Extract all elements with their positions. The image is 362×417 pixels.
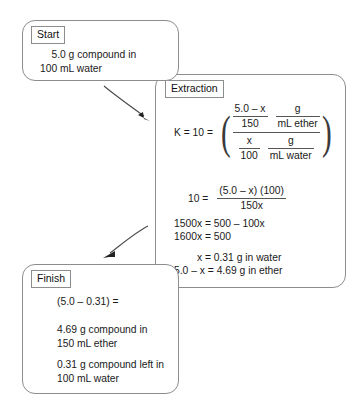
numerator-units-fraction: g mL ether	[276, 103, 320, 130]
complex-fraction-denominator: x 100 g mL water	[233, 133, 320, 162]
finish-box-line-3: 0.31 g compound left in 100 mL water	[57, 358, 164, 385]
denominator-units-fraction: g mL water	[268, 135, 314, 162]
finish-box-line-1: (5.0 – 0.31) =	[57, 295, 119, 309]
complex-fraction: 5.0 – x 150 g mL ether	[233, 103, 320, 162]
denominator-units-num: g	[286, 135, 296, 148]
extraction-box: Extraction K = 10 = ( 5.0 – x 150 g	[155, 74, 346, 288]
numerator-units-num: g	[293, 103, 303, 116]
extraction-steps-results: x = 0.31 g in water 5.0 – x = 4.69 g in …	[174, 251, 282, 277]
arrow-extraction-to-finish	[96, 222, 154, 264]
second-equation-fraction: (5.0 – x) (100) 150x	[217, 185, 286, 212]
main-equation-lhs: K = 10 =	[174, 127, 213, 138]
second-equation-numerator: (5.0 – x) (100)	[217, 185, 286, 198]
extraction-steps-algebra: 1500x = 500 – 100x 1600x = 500	[174, 217, 265, 243]
numerator-units-den: mL ether	[276, 117, 320, 130]
finish-box: Finish (5.0 – 0.31) = 4.69 g compound in…	[22, 264, 179, 394]
extraction-box-tag: Extraction	[165, 80, 224, 98]
second-equation-denominator: 150x	[238, 199, 264, 212]
arrow-start-to-extraction	[100, 82, 158, 128]
diagram-canvas: Start 5.0 g compound in 100 mL water Ext…	[0, 0, 362, 417]
numerator-quantity-fraction: 5.0 – x 150	[233, 103, 268, 130]
denominator-units-den: mL water	[268, 149, 314, 162]
denominator-quantity-den: 100	[239, 149, 260, 162]
finish-box-line-2: 4.69 g compound in 150 mL ether	[57, 323, 147, 350]
start-box-tag: Start	[31, 26, 65, 44]
complex-fraction-numerator: 5.0 – x 150 g mL ether	[233, 103, 320, 132]
extraction-second-equation: 10 = (5.0 – x) (100) 150x	[188, 185, 286, 212]
extraction-main-equation: K = 10 = ( 5.0 – x 150 g mL ether	[174, 103, 334, 162]
denominator-quantity-fraction: x 100	[239, 135, 260, 162]
numerator-quantity-den: 150	[239, 117, 260, 130]
start-box: Start 5.0 g compound in 100 mL water	[22, 20, 179, 81]
denominator-quantity-num: x	[245, 135, 254, 148]
second-equation-lhs: 10 =	[188, 193, 208, 204]
left-paren-icon: (	[221, 112, 231, 152]
right-paren-icon: )	[322, 112, 332, 152]
start-box-text: 5.0 g compound in 100 mL water	[40, 48, 136, 75]
numerator-quantity-num: 5.0 – x	[233, 103, 268, 116]
finish-box-tag: Finish	[31, 270, 71, 288]
